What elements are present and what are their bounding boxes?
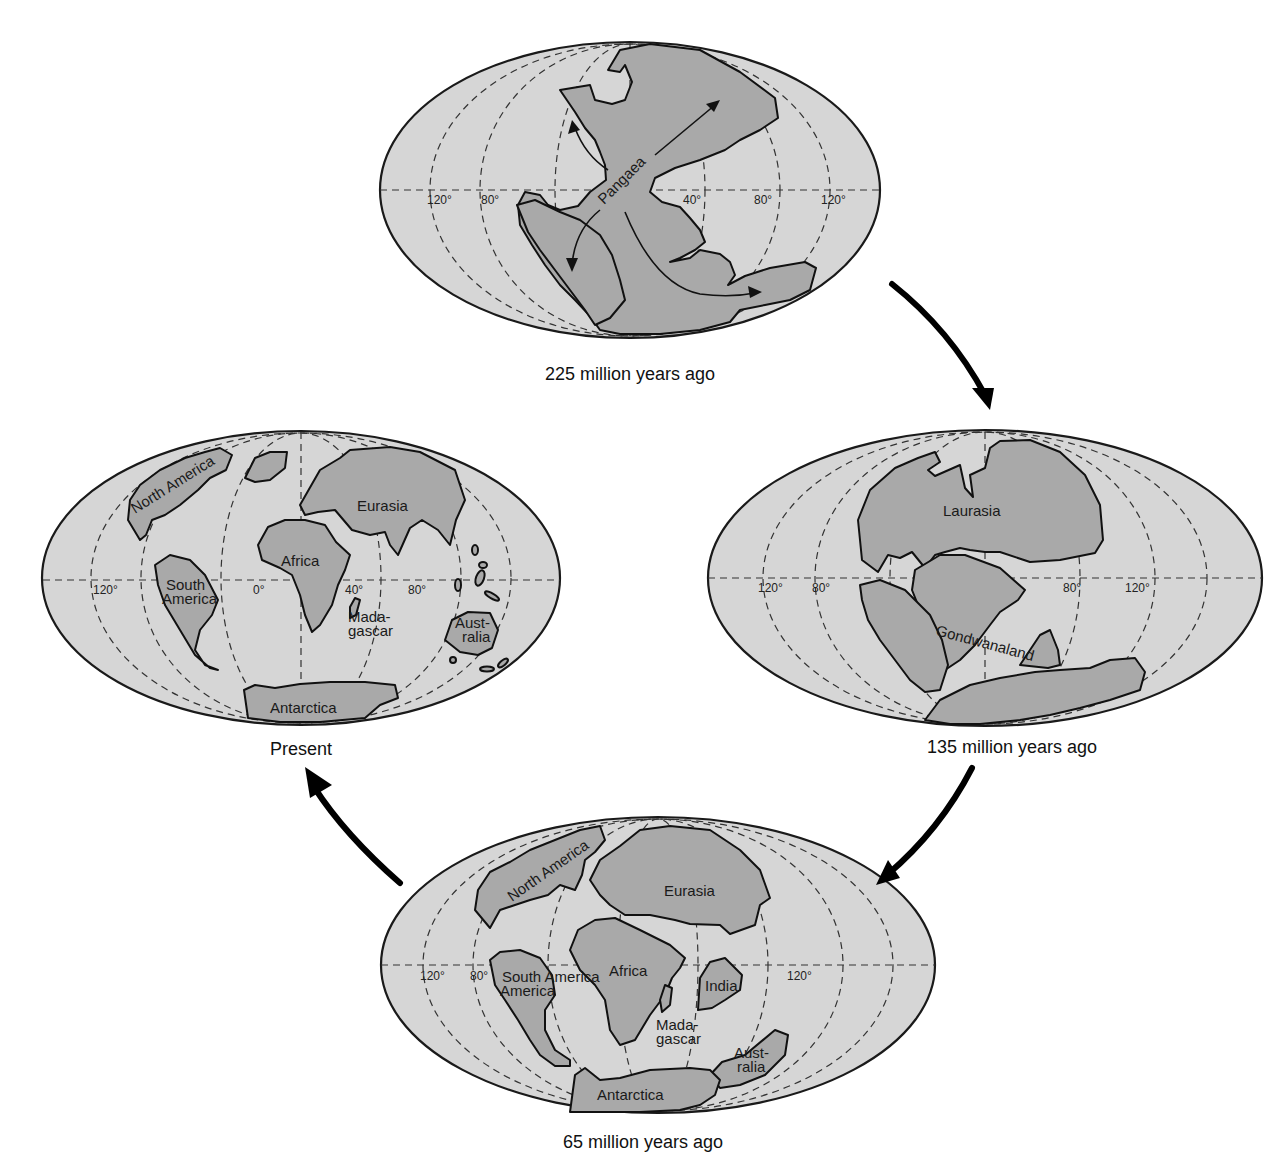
curved-arrow-65-to-present-icon — [305, 767, 400, 883]
map-caption: 65 million years ago — [563, 1132, 723, 1152]
continent-label-antarctica: Antarctica — [270, 699, 337, 716]
map-135-million-years-ago: Laurasia Gondwanaland 120° 80° 80° 120° … — [708, 430, 1262, 757]
continent-label-eurasia: Eurasia — [357, 497, 409, 514]
map-present: North America Eurasia Africa South Ameri… — [42, 431, 560, 759]
continental-drift-diagram: Pangaea 120° 80° 40° 80° 120° 225 millio… — [0, 0, 1275, 1171]
continent-label-eurasia: Eurasia — [664, 882, 716, 899]
map-caption: 135 million years ago — [927, 737, 1097, 757]
continent-label-madagascar-line2: gascar — [656, 1030, 701, 1047]
degree-label: 80° — [812, 581, 830, 595]
continent-label-australia-line2: ralia — [737, 1058, 766, 1075]
curved-arrow-225-to-135-icon — [892, 284, 994, 410]
degree-label: 120° — [427, 193, 452, 207]
continent-label-australia-line2: ralia — [462, 628, 491, 645]
degree-label: 120° — [787, 969, 812, 983]
map-caption: Present — [270, 739, 332, 759]
degree-label: 80° — [470, 969, 488, 983]
degree-label: 120° — [758, 581, 783, 595]
continent-label-south-america-line2: America — [500, 982, 556, 999]
degree-label: 120° — [420, 969, 445, 983]
degree-label: 0° — [253, 583, 265, 597]
degree-label: 120° — [93, 583, 118, 597]
continent-label-africa: Africa — [609, 962, 648, 979]
degree-label: 80° — [408, 583, 426, 597]
degree-label: 80° — [481, 193, 499, 207]
map-225-million-years-ago: Pangaea 120° 80° 40° 80° 120° 225 millio… — [380, 42, 880, 384]
map-caption: 225 million years ago — [545, 364, 715, 384]
degree-label: 80° — [754, 193, 772, 207]
degree-label: 120° — [821, 193, 846, 207]
degree-label: 120° — [1125, 581, 1150, 595]
map-65-million-years-ago: North America Eurasia South America Amer… — [381, 817, 935, 1152]
continent-label-laurasia: Laurasia — [943, 502, 1001, 519]
curved-arrow-135-to-65-icon — [876, 768, 972, 885]
degree-label: 80° — [1063, 581, 1081, 595]
degree-label: 40° — [345, 583, 363, 597]
continent-label-south-america-line2: America — [162, 590, 218, 607]
continent-label-india: India — [705, 977, 738, 994]
degree-label: 40° — [683, 193, 701, 207]
continent-label-antarctica: Antarctica — [597, 1086, 664, 1103]
continent-label-africa: Africa — [281, 552, 320, 569]
continent-label-madagascar-line2: gascar — [348, 622, 393, 639]
